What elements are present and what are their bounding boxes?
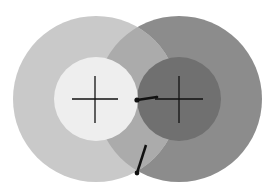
overlapping-targets-diagram bbox=[0, 0, 275, 190]
diagram-canvas bbox=[0, 0, 275, 190]
